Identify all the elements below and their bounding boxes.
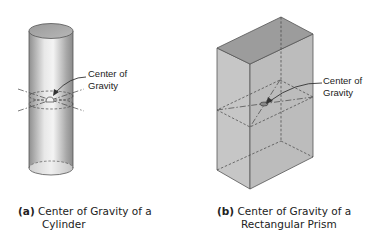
label-center-of-gravity-a: Center of Gravity: [88, 68, 127, 92]
prism-figure: [217, 17, 322, 189]
caption-b-tag: (b): [217, 205, 234, 217]
caption-a-line1: Center of Gravity of a: [38, 205, 152, 217]
caption-a: (a) Center of Gravity of a Cylinder: [18, 205, 152, 231]
label-a-line2: Gravity: [88, 80, 127, 92]
label-a-line1: Center of: [88, 68, 127, 80]
diagram-canvas: [0, 0, 375, 236]
cylinder-figure: [18, 24, 86, 176]
caption-a-line2: Cylinder: [18, 218, 152, 231]
center-of-gravity-marker-a: [46, 97, 54, 102]
label-b-line2: Gravity: [323, 87, 362, 99]
caption-a-tag: (a): [18, 205, 35, 217]
cylinder-top-face: [29, 24, 73, 39]
label-center-of-gravity-b: Center of Gravity: [323, 75, 362, 99]
caption-b-line2: Rectangular Prism: [217, 218, 351, 231]
label-b-line1: Center of: [323, 75, 362, 87]
caption-b: (b) Center of Gravity of a Rectangular P…: [217, 205, 351, 231]
caption-b-line1: Center of Gravity of a: [237, 205, 351, 217]
